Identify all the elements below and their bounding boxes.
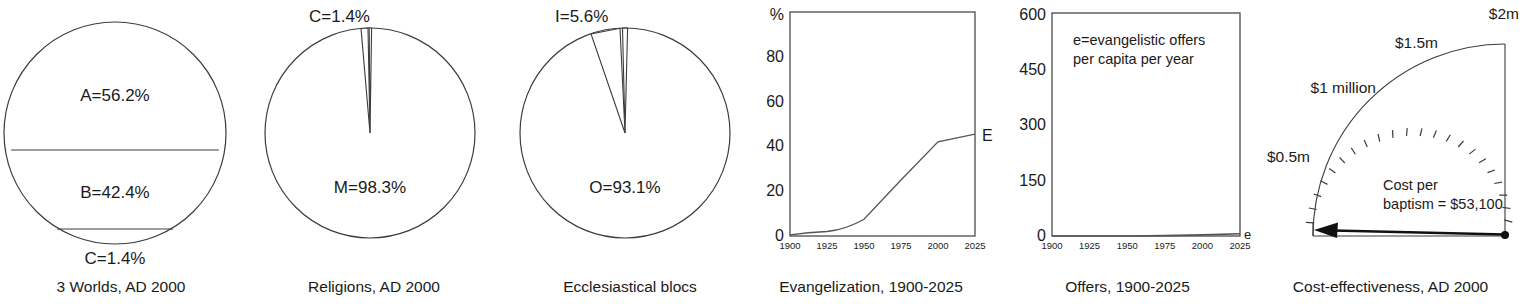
- y-tick-600: 600: [1019, 6, 1046, 23]
- pie-slice-label-a: A=56.2%: [80, 86, 149, 105]
- x-tick-1950: 1950: [1117, 240, 1138, 251]
- x-tick-1900: 1900: [1041, 240, 1062, 251]
- gauge-scale-label-1-million: $1 million: [1311, 79, 1376, 96]
- gauge-scale-label-2m: $2m: [1489, 5, 1519, 22]
- panel-caption-three-worlds: 3 Worlds, AD 2000: [0, 278, 242, 296]
- pie-outline: [4, 22, 226, 244]
- pie-slice-label-c: C=1.4%: [85, 249, 146, 268]
- panel-caption-offers: Offers, 1900-2025: [995, 278, 1260, 296]
- panel-caption-religions: Religions, AD 2000: [248, 278, 500, 296]
- x-tick-1975: 1975: [1154, 240, 1175, 251]
- annotation-line-2: per capita per year: [1073, 51, 1194, 67]
- y-tick-450: 450: [1019, 61, 1046, 78]
- y-tick-300: 300: [1019, 116, 1046, 133]
- x-tick-2025: 2025: [964, 240, 985, 251]
- y-axis-unit-label: %: [770, 6, 784, 23]
- statistics-panel-row: A=56.2% B=42.4% C=1.4% 3 Worlds, AD 2000…: [0, 0, 1523, 304]
- y-tick-150: 150: [1019, 172, 1046, 189]
- three-worlds-pie-chart: A=56.2% B=42.4% C=1.4%: [0, 0, 242, 268]
- series-tag-e: E: [982, 127, 993, 144]
- gauge-needle-shaft: [1333, 231, 1505, 235]
- x-tick-1950: 1950: [853, 240, 874, 251]
- panel-ecclesiastical-blocs: I=5.6% O=93.1% Ecclesiastical blocs: [505, 0, 755, 304]
- gauge-scale-label-0-5m: $0.5m: [1267, 148, 1310, 165]
- panel-offers: 0 150 300 450 600 1900 1925 1950 1975 20…: [995, 0, 1260, 304]
- x-tick-1975: 1975: [890, 240, 911, 251]
- pie-slice-label-b: B=42.4%: [80, 183, 149, 202]
- ecclesiastical-blocs-pie-chart: I=5.6% O=93.1%: [505, 0, 755, 268]
- x-tick-1925: 1925: [816, 240, 837, 251]
- x-tick-1925: 1925: [1079, 240, 1100, 251]
- plot-frame: [790, 12, 975, 236]
- panel-religions: C=1.4% M=98.3% Religions, AD 2000: [248, 0, 500, 304]
- y-tick-40: 40: [766, 137, 784, 154]
- panel-cost-effectiveness: $0.5m $1 million $1.5m $2m Cost per bapt…: [1258, 0, 1523, 304]
- panel-evangelization: % 0 20 40 60 80 1900 1925 1950 1975 2000…: [742, 0, 1000, 304]
- religions-pie-chart: C=1.4% M=98.3%: [248, 0, 500, 268]
- pie-slice-label-m: M=98.3%: [334, 178, 406, 197]
- gauge-scale-label-1-5m: $1.5m: [1395, 34, 1438, 51]
- data-series-e: [790, 134, 975, 235]
- panel-caption-evangelization: Evangelization, 1900-2025: [742, 278, 1000, 296]
- y-tick-80: 80: [766, 48, 784, 65]
- y-tick-20: 20: [766, 182, 784, 199]
- panel-three-worlds: A=56.2% B=42.4% C=1.4% 3 Worlds, AD 2000: [0, 0, 242, 304]
- y-tick-60: 60: [766, 93, 784, 110]
- x-tick-2000: 2000: [1192, 240, 1213, 251]
- x-tick-1900: 1900: [779, 240, 800, 251]
- pie-slice-label-i: I=5.6%: [555, 7, 608, 26]
- panel-caption-ecclesiastical-blocs: Ecclesiastical blocs: [505, 278, 755, 296]
- series-tag-e: e: [1244, 227, 1251, 242]
- gauge-annotation-line-1: Cost per: [1383, 177, 1438, 193]
- pie-slice-label-c: C=1.4%: [309, 7, 370, 26]
- x-tick-2000: 2000: [927, 240, 948, 251]
- pie-slice-label-o: O=93.1%: [589, 178, 660, 197]
- offers-line-chart: 0 150 300 450 600 1900 1925 1950 1975 20…: [995, 0, 1260, 268]
- cost-effectiveness-gauge: $0.5m $1 million $1.5m $2m Cost per bapt…: [1258, 0, 1523, 268]
- panel-caption-cost-effectiveness: Cost-effectiveness, AD 2000: [1258, 278, 1523, 296]
- annotation-line-1: e=evangelistic offers: [1073, 32, 1205, 48]
- gauge-pivot-dot: [1501, 231, 1509, 239]
- gauge-annotation-line-2: baptism = $53,100: [1383, 196, 1503, 212]
- evangelization-line-chart: % 0 20 40 60 80 1900 1925 1950 1975 2000…: [742, 0, 1000, 268]
